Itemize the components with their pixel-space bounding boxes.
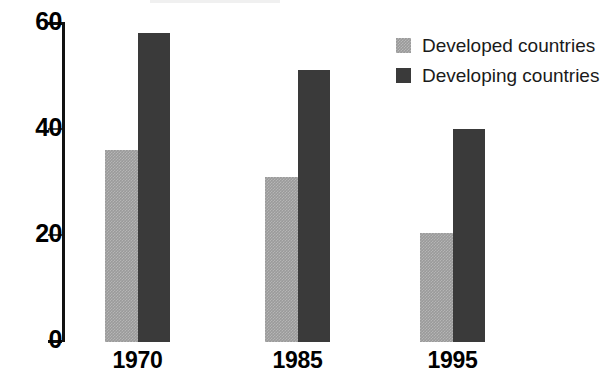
bar-developing-1970 bbox=[138, 33, 170, 342]
chart-legend: Developed countries Developing countries bbox=[396, 30, 599, 90]
x-axis-label-1985: 1985 bbox=[265, 349, 330, 372]
developing-swatch-icon bbox=[396, 68, 411, 83]
bar-chart: 60 40 20 0 1970 1985 199 bbox=[0, 0, 602, 374]
developed-swatch-icon bbox=[396, 38, 411, 53]
legend-label-developing: Developing countries bbox=[422, 66, 599, 85]
bar-developing-1995 bbox=[453, 129, 485, 342]
x-axis-label-1995: 1995 bbox=[420, 349, 485, 372]
bar-developed-1985 bbox=[265, 177, 298, 342]
bar-group-1985 bbox=[265, 22, 330, 342]
bar-developed-1995 bbox=[420, 233, 453, 342]
legend-label-developed: Developed countries bbox=[422, 36, 595, 55]
bar-group-1970 bbox=[105, 22, 170, 342]
legend-item-developing: Developing countries bbox=[396, 60, 599, 90]
legend-item-developed: Developed countries bbox=[396, 30, 599, 60]
bar-developing-1985 bbox=[298, 70, 330, 342]
bar-developed-1970 bbox=[105, 150, 138, 342]
x-axis-label-1970: 1970 bbox=[105, 349, 170, 372]
